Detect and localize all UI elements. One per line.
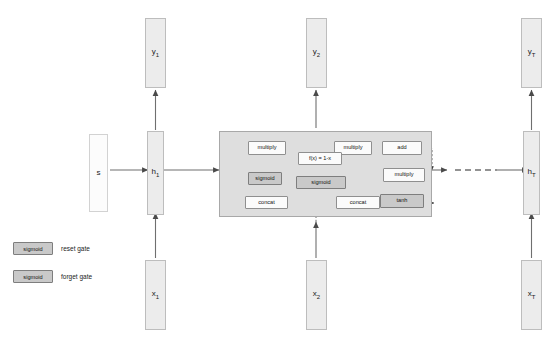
op-concat-right: concat xyxy=(336,196,380,209)
op-label: sigmoid xyxy=(311,180,330,186)
legend-swatch-label: sigmoid xyxy=(23,274,42,280)
legend-text-forget-gate: forget gate xyxy=(61,273,92,280)
output-sub-t1: 1 xyxy=(156,52,159,58)
op-concat-left: concat xyxy=(245,196,288,209)
legend-item-forget-gate: sigmoid forget gate xyxy=(13,270,92,283)
input-sub-t2: 2 xyxy=(317,294,320,300)
op-label: tanh xyxy=(397,198,408,204)
hidden-state-label-t1: h1 xyxy=(152,168,160,178)
input-bar-t2: x2 xyxy=(306,260,327,330)
hidden-state-bar-t1: h1 xyxy=(147,131,164,215)
output-bar-t2: y2 xyxy=(306,18,327,88)
output-bar-t1: y1 xyxy=(145,18,166,88)
op-sigmoid-reset: sigmoid xyxy=(248,172,282,185)
op-sigmoid-forget: sigmoid xyxy=(296,176,346,189)
op-label: multiply xyxy=(344,145,363,151)
op-multiply-reset: multiply xyxy=(248,141,286,155)
output-label-tT: yT xyxy=(528,48,536,58)
op-label: sigmoid xyxy=(255,176,274,182)
clipped-header-strip xyxy=(0,0,556,8)
legend-item-reset-gate: sigmoid reset gate xyxy=(13,242,90,255)
legend-swatch-reset-gate: sigmoid xyxy=(13,242,53,255)
input-sub-t1: 1 xyxy=(156,294,159,300)
input-bar-t1: x1 xyxy=(145,260,166,330)
initial-state-label: s xyxy=(97,169,101,177)
op-multiply-candidate: multiply xyxy=(383,168,425,182)
hidden-state-sub-tT: T xyxy=(532,172,536,178)
initial-state-bar: s xyxy=(89,134,108,212)
op-label: multiply xyxy=(258,145,277,151)
op-invert-function: f(x) = 1-x xyxy=(298,152,342,165)
op-label: concat xyxy=(258,200,274,206)
input-label-t1: x1 xyxy=(152,290,159,300)
output-bar-tT: yT xyxy=(521,18,542,88)
input-label-t2: x2 xyxy=(313,290,320,300)
op-add: add xyxy=(382,141,422,155)
hidden-state-label-tT: hT xyxy=(527,168,535,178)
output-sub-t2: 2 xyxy=(317,52,320,58)
hidden-state-sub-t1: 1 xyxy=(156,172,159,178)
legend-swatch-label: sigmoid xyxy=(23,246,42,252)
op-label: concat xyxy=(350,200,366,206)
op-label: f(x) = 1-x xyxy=(309,156,331,162)
output-label-t2: y2 xyxy=(313,48,320,58)
input-bar-tT: xT xyxy=(521,260,542,330)
diagram-canvas: multiply sigmoid concat multiply f(x) = … xyxy=(0,0,556,340)
op-label: multiply xyxy=(395,172,414,178)
output-label-t1: y1 xyxy=(152,48,159,58)
legend-swatch-forget-gate: sigmoid xyxy=(13,270,53,283)
output-sub-tT: T xyxy=(532,52,536,58)
legend-text-reset-gate: reset gate xyxy=(61,245,90,252)
op-tanh: tanh xyxy=(380,194,424,208)
hidden-state-bar-tT: hT xyxy=(523,131,540,215)
input-label-tT: xT xyxy=(528,290,536,300)
op-label: add xyxy=(397,145,406,151)
input-sub-tT: T xyxy=(532,294,536,300)
